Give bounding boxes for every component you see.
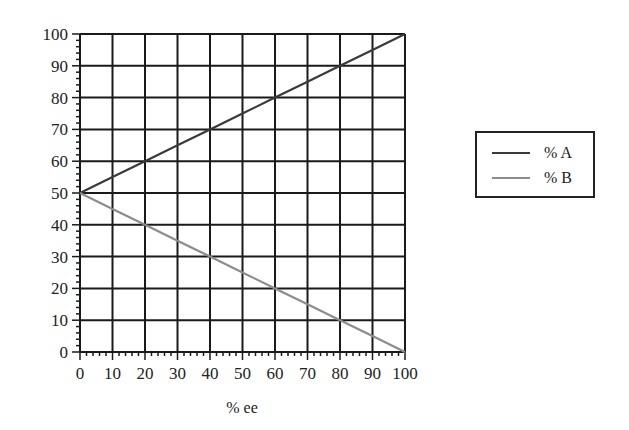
legend-label-a: % A — [544, 144, 572, 162]
legend-label-b: % B — [544, 169, 572, 187]
svg-text:90: 90 — [364, 364, 381, 383]
svg-text:20: 20 — [137, 364, 154, 383]
svg-text:30: 30 — [51, 248, 68, 267]
legend-item-b: % B — [477, 168, 572, 188]
svg-text:30: 30 — [169, 364, 186, 383]
svg-text:40: 40 — [202, 364, 219, 383]
svg-text:0: 0 — [76, 364, 85, 383]
svg-text:90: 90 — [51, 57, 68, 76]
svg-text:100: 100 — [43, 25, 69, 44]
svg-text:50: 50 — [51, 184, 68, 203]
svg-text:70: 70 — [299, 364, 316, 383]
legend-swatch-a — [492, 152, 530, 154]
svg-text:80: 80 — [51, 89, 68, 108]
legend-swatch-b — [492, 177, 530, 179]
legend: % A % B — [475, 131, 595, 198]
svg-text:60: 60 — [51, 152, 68, 171]
svg-text:60: 60 — [267, 364, 284, 383]
svg-text:50: 50 — [234, 364, 251, 383]
legend-item-a: % A — [477, 143, 572, 163]
svg-text:70: 70 — [51, 120, 68, 139]
line-chart: 0102030405060708090100 01020304050607080… — [0, 0, 629, 430]
y-axis-tick-labels: 0102030405060708090100 — [43, 25, 69, 362]
svg-text:10: 10 — [51, 311, 68, 330]
svg-text:80: 80 — [332, 364, 349, 383]
svg-text:10: 10 — [104, 364, 121, 383]
grid-lines — [80, 34, 405, 352]
svg-text:100: 100 — [392, 364, 418, 383]
x-axis-label: % ee — [226, 399, 258, 416]
svg-text:0: 0 — [60, 343, 69, 362]
svg-text:20: 20 — [51, 279, 68, 298]
axis-ticks — [72, 34, 405, 360]
svg-text:40: 40 — [51, 216, 68, 235]
x-axis-tick-labels: 0102030405060708090100 — [76, 364, 418, 383]
